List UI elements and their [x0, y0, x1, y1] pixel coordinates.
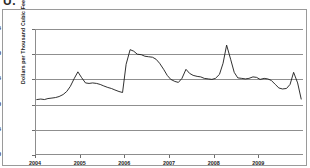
y-axis-title: Dollars per Thousand Cubic Feet — [20, 0, 26, 97]
x-tick-mark — [258, 155, 259, 158]
y-tick-label: 25 — [0, 26, 1, 31]
y-tick-label: 15 — [0, 76, 1, 81]
x-tick-label: 2006 — [118, 160, 130, 166]
x-tick-label: 2004 — [29, 160, 41, 166]
x-tick-mark — [169, 155, 170, 158]
series-line-natural-gas-price — [35, 29, 303, 155]
x-tick-label: 2009 — [252, 160, 264, 166]
plot-area: 0510152025 200420052006200720082009 — [35, 29, 303, 155]
chart-frame: Dollars per Thousand Cubic Feet 05101520… — [2, 9, 307, 166]
x-tick-label: 2005 — [74, 160, 86, 166]
figure-container: U. Dollars per Thousand Cubic Feet 05101… — [0, 0, 310, 168]
x-tick-mark — [214, 155, 215, 158]
y-tick-label: 5 — [0, 127, 1, 132]
x-tick-label: 2008 — [208, 160, 220, 166]
x-tick-label: 2007 — [163, 160, 175, 166]
y-tick-label: 0 — [0, 152, 1, 157]
x-tick-mark — [80, 155, 81, 158]
figure-label: U. — [3, 0, 16, 7]
y-tick-label: 10 — [0, 102, 1, 107]
x-tick-mark — [35, 155, 36, 158]
y-tick-label: 20 — [0, 51, 1, 56]
x-tick-mark — [124, 155, 125, 158]
